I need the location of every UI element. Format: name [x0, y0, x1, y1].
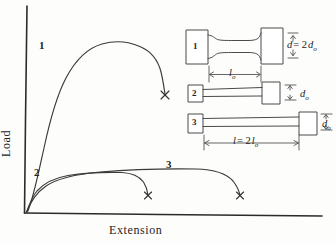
specimen-1-bottom-profile — [208, 53, 261, 61]
specimen-2-group — [188, 82, 296, 104]
y-axis — [25, 6, 28, 213]
spec1-equals: = 2 — [292, 39, 308, 50]
y-axis-label: Load — [0, 130, 12, 157]
spec3-equals: = 2 — [236, 135, 252, 146]
specimen-1-diameter-label: d= 2do — [287, 40, 317, 53]
curve-label-1: 1 — [39, 40, 45, 51]
curve-1-path — [28, 42, 166, 212]
specimen-number-2: 2 — [192, 89, 197, 98]
load-extension-figure: 1 2 3 Load Extension 1 2 3 d= 2do lo do … — [0, 0, 336, 243]
specimen-3-bottom-edge — [203, 126, 299, 127]
curve-label-3: 3 — [166, 159, 172, 170]
specimen-2-diameter-label: do — [300, 89, 309, 102]
spec1-l-subscript: o — [232, 73, 236, 81]
specimen-3-length-label: l= 2lo — [233, 136, 258, 149]
spec1-d-subscript: o — [313, 45, 317, 53]
curve-label-2: 2 — [34, 167, 40, 178]
spec2-d-subscript: o — [305, 94, 309, 102]
specimen-3-diameter-label: do — [322, 119, 331, 132]
specimen-2-right-grip — [262, 82, 280, 104]
curve-1-group — [28, 42, 170, 212]
spec3-l-subscript: o — [255, 141, 259, 149]
specimen-1-group — [186, 28, 298, 82]
specimen-1-top-profile — [208, 33, 261, 41]
specimen-2-bottom-edge — [203, 96, 262, 97]
spec3-d-subscript: o — [327, 124, 331, 132]
specimen-1-gauge-label: lo — [229, 68, 235, 81]
specimen-3-group — [188, 112, 332, 150]
curve-2-group — [27, 172, 152, 212]
specimen-3-top-edge — [203, 117, 299, 119]
specimen-number-3: 3 — [192, 118, 197, 127]
specimen-2-diameter-dimension — [285, 85, 296, 100]
x-axis-label: Extension — [109, 224, 162, 236]
specimen-1-right-grip — [261, 28, 283, 64]
specimen-3-right-grip — [299, 112, 317, 135]
specimen-2-top-edge — [203, 88, 262, 90]
specimen-number-1: 1 — [193, 42, 198, 51]
curve-3-path — [27, 169, 241, 213]
curve-2-path — [27, 172, 149, 212]
figure-canvas — [0, 0, 336, 243]
x-axis — [25, 213, 323, 216]
